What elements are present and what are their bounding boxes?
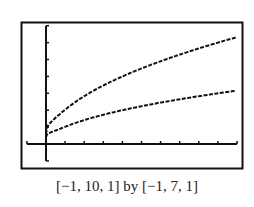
curve-upper: [46, 37, 236, 133]
calculator-graph-window: [0, 0, 254, 175]
curve-lower: [46, 91, 236, 138]
curves: [46, 37, 236, 137]
window-settings-caption: [−1, 10, 1] by [−1, 7, 1]: [0, 178, 254, 195]
